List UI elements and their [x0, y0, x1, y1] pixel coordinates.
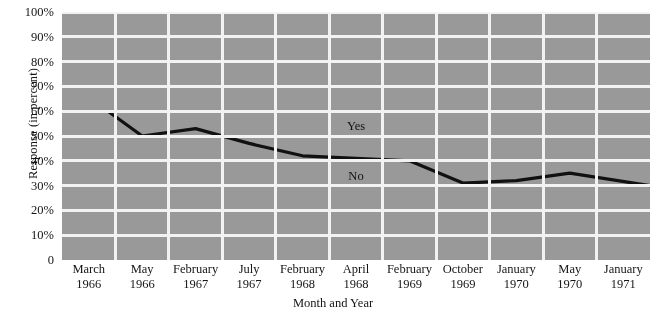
x-tick-label: May1970 — [557, 262, 582, 292]
x-tick-year: 1970 — [557, 277, 582, 292]
gridline-vertical — [542, 12, 545, 260]
gridline-horizontal — [62, 60, 650, 63]
x-tick-year: 1969 — [387, 277, 432, 292]
gridline-vertical — [595, 12, 598, 260]
x-tick-label: October1969 — [443, 262, 483, 292]
gridline-vertical — [328, 12, 331, 260]
gridline-vertical — [114, 12, 117, 260]
y-tick-label: 10% — [31, 228, 54, 243]
x-tick-month: March — [72, 262, 105, 277]
x-tick-month: October — [443, 262, 483, 277]
y-tick-label: 80% — [31, 54, 54, 69]
x-tick-month: January — [604, 262, 643, 277]
x-tick-month: July — [237, 262, 262, 277]
x-tick-label: May1966 — [130, 262, 155, 292]
x-tick-month: April — [343, 262, 369, 277]
x-tick-label: January1971 — [604, 262, 643, 292]
x-tick-label: February1967 — [173, 262, 218, 292]
y-tick-label: 40% — [31, 153, 54, 168]
gridline-horizontal — [62, 35, 650, 38]
x-tick-label: March1966 — [72, 262, 105, 292]
gridline-horizontal — [62, 110, 650, 113]
series-annotation-yes: Yes — [347, 119, 365, 134]
gridline-horizontal — [62, 135, 650, 138]
x-tick-label: January1970 — [497, 262, 536, 292]
x-tick-year: 1968 — [280, 277, 325, 292]
gridline-vertical — [167, 12, 170, 260]
y-tick-label: 90% — [31, 29, 54, 44]
gridline-vertical — [221, 12, 224, 260]
x-tick-month: January — [497, 262, 536, 277]
gridline-horizontal — [62, 85, 650, 88]
x-tick-year: 1966 — [72, 277, 105, 292]
x-tick-month: May — [130, 262, 155, 277]
plot-area: YesNo — [62, 12, 650, 260]
y-tick-label: 70% — [31, 79, 54, 94]
x-tick-month: May — [557, 262, 582, 277]
x-tick-year: 1967 — [237, 277, 262, 292]
x-axis-title: Month and Year — [0, 296, 666, 311]
y-tick-label: 30% — [31, 178, 54, 193]
x-tick-year: 1969 — [443, 277, 483, 292]
gridline-vertical — [381, 12, 384, 260]
gridline-horizontal — [62, 234, 650, 237]
x-tick-year: 1971 — [604, 277, 643, 292]
x-tick-year: 1967 — [173, 277, 218, 292]
x-tick-label: April1968 — [343, 262, 369, 292]
gridline-vertical — [435, 12, 438, 260]
gridline-horizontal — [62, 159, 650, 162]
gridline-vertical — [488, 12, 491, 260]
x-tick-month: February — [280, 262, 325, 277]
x-tick-year: 1970 — [497, 277, 536, 292]
y-tick-label: 60% — [31, 104, 54, 119]
x-tick-label: July1967 — [237, 262, 262, 292]
y-tick-label: 100% — [25, 5, 54, 20]
x-tick-label: February1969 — [387, 262, 432, 292]
y-tick-label: 20% — [31, 203, 54, 218]
gridline-horizontal — [62, 12, 650, 14]
chart-container: Response (in percent) 100%90%80%70%60%50… — [0, 0, 666, 319]
x-tick-label: February1968 — [280, 262, 325, 292]
x-tick-month: February — [387, 262, 432, 277]
series-annotation-no: No — [348, 168, 363, 183]
gridline-horizontal — [62, 184, 650, 187]
x-tick-year: 1968 — [343, 277, 369, 292]
y-tick-label: 50% — [31, 129, 54, 144]
x-tick-month: February — [173, 262, 218, 277]
x-tick-year: 1966 — [130, 277, 155, 292]
gridline-horizontal — [62, 209, 650, 212]
gridline-vertical — [274, 12, 277, 260]
